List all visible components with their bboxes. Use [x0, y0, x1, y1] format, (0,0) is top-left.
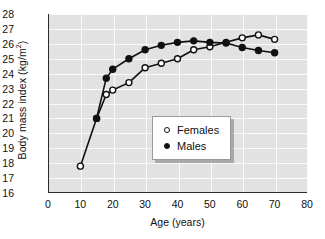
legend-item-females: Females: [160, 122, 219, 138]
data-point: [175, 39, 181, 45]
data-point: [255, 48, 261, 54]
data-point: [272, 50, 278, 56]
bmi-vs-age-chart: Body mass index (kg/m2) 1617181920212223…: [0, 0, 325, 239]
data-point: [239, 45, 245, 51]
data-point: [103, 92, 109, 98]
series-line: [97, 41, 275, 119]
legend: Females Males: [152, 116, 231, 160]
data-point: [272, 36, 278, 42]
data-point: [207, 39, 213, 45]
data-point: [94, 115, 100, 121]
data-point: [158, 60, 164, 66]
data-point: [103, 75, 109, 81]
data-point: [239, 35, 245, 41]
data-point: [223, 40, 229, 46]
data-point: [126, 56, 132, 62]
data-point: [191, 47, 197, 53]
data-point: [142, 47, 148, 53]
legend-label-males: Males: [177, 140, 206, 152]
data-point: [175, 56, 181, 62]
data-point: [77, 163, 83, 169]
data-point: [255, 32, 261, 38]
legend-label-females: Females: [177, 124, 219, 136]
data-point: [110, 66, 116, 72]
solid-circle-icon: [160, 143, 173, 149]
data-point: [142, 65, 148, 71]
series-males: [94, 38, 278, 122]
legend-item-males: Males: [160, 138, 219, 154]
open-circle-icon: [160, 127, 173, 133]
data-point: [110, 87, 116, 93]
data-point: [158, 42, 164, 48]
data-point: [191, 38, 197, 44]
data-point: [126, 80, 132, 86]
